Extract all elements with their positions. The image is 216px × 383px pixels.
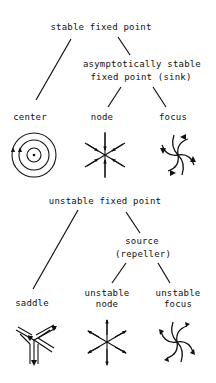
fixed-point-classification-diagram: stable fixed point asymptotically stable… [0,0,216,383]
unstable-focus-icon [0,0,216,383]
